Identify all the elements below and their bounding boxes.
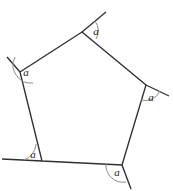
angle-labels-group: a a a a a — [23, 25, 154, 178]
angle-label-bottom-left: a — [30, 148, 36, 160]
angle-label-right: a — [148, 91, 154, 103]
pentagon-exterior-angles-diagram: a a a a a — [0, 0, 173, 191]
pentagon-outline — [20, 32, 146, 165]
geometry-figure-container: a a a a a — [0, 0, 173, 191]
angle-label-bottom-right: a — [114, 166, 120, 178]
extension-ray-bottom-left — [2, 159, 42, 161]
angle-label-top: a — [93, 25, 99, 37]
extension-ray-bottom-right — [122, 165, 131, 189]
angle-label-left: a — [23, 66, 29, 78]
